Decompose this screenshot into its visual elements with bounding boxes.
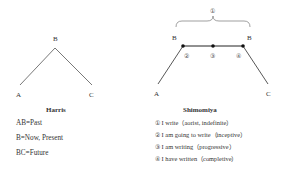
shimomiya-legend-3: ③ I am writing（progressive）	[155, 142, 235, 151]
harris-diagram: B A C	[16, 35, 94, 99]
shimomiya-legend-2: ② I am going to write（inceptive）	[155, 130, 246, 139]
harris-legend-future: BC=Future	[16, 149, 48, 157]
shimomiya-label-b-left: B	[172, 34, 177, 42]
shimomiya-bracket	[176, 16, 250, 27]
shimomiya-line-ab	[158, 46, 183, 84]
shimomiya-line-bc	[243, 46, 268, 84]
shimomiya-bracket-marker: ①	[210, 7, 215, 14]
harris-label-b: B	[53, 35, 58, 43]
shimomiya-label-c: C	[266, 90, 271, 98]
shimomiya-legend-4: ④ I have written（completive）	[155, 154, 237, 163]
shimomiya-marker-4: ④	[236, 52, 241, 59]
harris-label-a: A	[16, 91, 21, 99]
diagram-canvas: B A C ① B B ② ③ ④ A C	[0, 0, 286, 173]
harris-legend-present: B=Now, Present	[16, 134, 63, 142]
shimomiya-legend-1: ① I write（aorist, indefinite）	[155, 118, 232, 127]
harris-line-ab	[20, 48, 55, 85]
harris-line-bc	[55, 48, 92, 85]
shimomiya-point-3	[211, 44, 215, 48]
harris-label-c: C	[89, 91, 94, 99]
shimomiya-diagram: ① B B ② ③ ④ A C	[154, 7, 271, 98]
harris-title: Harris	[46, 106, 66, 114]
shimomiya-point-4	[241, 44, 245, 48]
shimomiya-point-2	[181, 44, 185, 48]
shimomiya-marker-3: ③	[210, 52, 215, 59]
harris-legend-past: AB=Past	[16, 119, 42, 127]
shimomiya-title: Shimomiya	[183, 106, 217, 114]
shimomiya-marker-2: ②	[184, 52, 189, 59]
shimomiya-label-a: A	[154, 90, 159, 98]
shimomiya-label-b-right: B	[247, 34, 252, 42]
